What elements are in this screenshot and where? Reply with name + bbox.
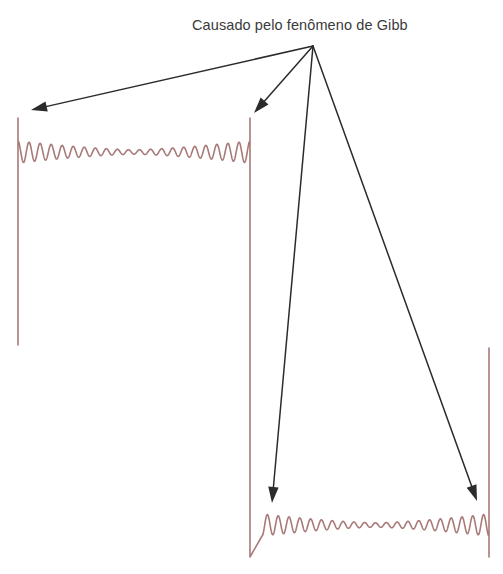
arrow-to-bottom-right-undershoot — [313, 46, 477, 501]
arrow-to-bottom-left-undershoot — [268, 46, 313, 503]
figure-canvas: Causado pelo fenômeno de Gibb — [0, 0, 503, 574]
arrow-to-top-left-overshoot-head — [31, 101, 48, 111]
arrow-to-bottom-left-undershoot-head — [268, 487, 278, 503]
arrow-to-top-right-overshoot — [254, 46, 313, 113]
arrow-to-bottom-left-undershoot-shaft — [273, 46, 313, 490]
arrow-to-bottom-right-undershoot-shaft — [313, 46, 473, 489]
arrow-to-top-left-overshoot-shaft — [44, 46, 313, 107]
annotation-arrow-group — [31, 46, 477, 503]
arrow-to-top-right-overshoot-shaft — [263, 46, 313, 103]
arrow-to-top-left-overshoot — [31, 46, 313, 112]
arrow-to-bottom-right-undershoot-head — [467, 484, 477, 501]
gibbs-phenomenon-diagram — [0, 0, 503, 574]
figure-caption: Causado pelo fenômeno de Gibb — [192, 17, 408, 34]
